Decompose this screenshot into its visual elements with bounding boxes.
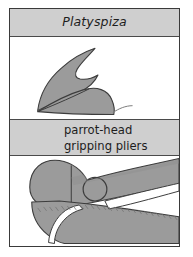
pliers-illustration-cell	[10, 157, 179, 246]
beak-illustration	[10, 38, 179, 119]
tool-name-line-1: parrot-head	[64, 122, 132, 138]
beak-illustration-cell	[10, 38, 179, 119]
tool-name-line-2: gripping pliers	[64, 138, 147, 154]
taxon-name-band: Platyspiza	[10, 9, 179, 37]
figure-root: Platyspiza parrot-head gripping pliers	[0, 0, 193, 257]
tool-name-band: parrot-head gripping pliers	[10, 119, 179, 156]
pliers-illustration	[10, 157, 179, 246]
beak-trailing-contour	[113, 106, 133, 113]
figure-panel: Platyspiza parrot-head gripping pliers	[9, 8, 180, 247]
taxon-name-label: Platyspiza	[62, 16, 127, 29]
panel-footer-spacer	[10, 246, 179, 247]
